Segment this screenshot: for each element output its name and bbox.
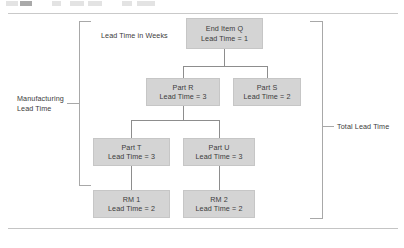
total-lead-time-bracket bbox=[322, 21, 323, 219]
total-lead-time-bracket-top-arm bbox=[310, 21, 322, 22]
connector-s-up bbox=[267, 66, 268, 78]
node-title: RM 2 bbox=[210, 195, 228, 204]
connector-q-down bbox=[224, 49, 225, 66]
connector-r-bus bbox=[131, 120, 219, 121]
node-lead-time: Lead Time = 3 bbox=[195, 152, 242, 161]
connector-r-down bbox=[183, 106, 184, 120]
top-divider bbox=[8, 13, 398, 14]
manufacturing-lead-time-label: Manufacturing Lead Time bbox=[17, 94, 64, 115]
toolbar-chip bbox=[122, 1, 132, 6]
node-title: Part T bbox=[121, 143, 141, 152]
node-title: Part S bbox=[257, 83, 278, 92]
toolbar-chip bbox=[88, 1, 102, 6]
node-title: Part R bbox=[173, 83, 194, 92]
connector-r-up bbox=[183, 66, 184, 78]
node-part-t[interactable]: Part T Lead Time = 3 bbox=[93, 138, 170, 166]
toolbar-chip bbox=[6, 1, 18, 6]
node-lead-time: Lead Time = 1 bbox=[201, 34, 248, 43]
toolbar-remnant bbox=[0, 0, 404, 9]
diagram-page: End Item Q Lead Time = 1 Part R Lead Tim… bbox=[0, 0, 404, 248]
node-lead-time: Lead Time = 2 bbox=[243, 92, 290, 101]
node-lead-time: Lead Time = 2 bbox=[195, 204, 242, 213]
node-title: RM 1 bbox=[123, 195, 141, 204]
toolbar-chip bbox=[70, 1, 84, 6]
total-lead-time-label: Total Lead Time bbox=[337, 122, 389, 132]
manufacturing-lead-time-bracket-top-arm bbox=[79, 21, 91, 22]
node-lead-time: Lead Time = 3 bbox=[159, 92, 206, 101]
manufacturing-lead-time-label-line2: Lead Time bbox=[17, 104, 64, 114]
node-title: Part U bbox=[209, 143, 230, 152]
connector-t-up bbox=[131, 120, 132, 138]
lead-time-units-label: Lead Time in Weeks bbox=[101, 31, 168, 41]
connector-u-down bbox=[219, 166, 220, 190]
node-title: End Item Q bbox=[206, 24, 243, 33]
toolbar-chip bbox=[52, 1, 61, 6]
node-part-s[interactable]: Part S Lead Time = 2 bbox=[233, 78, 301, 106]
manufacturing-lead-time-bracket bbox=[79, 21, 80, 186]
toolbar-chip bbox=[137, 1, 155, 6]
node-rm-1[interactable]: RM 1 Lead Time = 2 bbox=[93, 190, 170, 218]
manufacturing-lead-time-bracket-leader bbox=[67, 103, 79, 104]
node-part-u[interactable]: Part U Lead Time = 3 bbox=[183, 138, 255, 166]
connector-q-bus bbox=[183, 66, 267, 67]
bottom-divider bbox=[8, 228, 398, 229]
total-lead-time-bracket-leader bbox=[322, 126, 334, 127]
node-rm-2[interactable]: RM 2 Lead Time = 2 bbox=[183, 190, 255, 218]
node-lead-time: Lead Time = 2 bbox=[108, 204, 155, 213]
manufacturing-lead-time-bracket-bottom-arm bbox=[79, 185, 91, 186]
toolbar-chip bbox=[20, 1, 32, 6]
node-part-r[interactable]: Part R Lead Time = 3 bbox=[146, 78, 220, 106]
node-end-item-q[interactable]: End Item Q Lead Time = 1 bbox=[186, 18, 263, 49]
connector-u-up bbox=[219, 120, 220, 138]
total-lead-time-bracket-bottom-arm bbox=[310, 218, 322, 219]
manufacturing-lead-time-label-line1: Manufacturing bbox=[17, 94, 64, 104]
connector-t-down bbox=[131, 166, 132, 190]
node-lead-time: Lead Time = 3 bbox=[108, 152, 155, 161]
